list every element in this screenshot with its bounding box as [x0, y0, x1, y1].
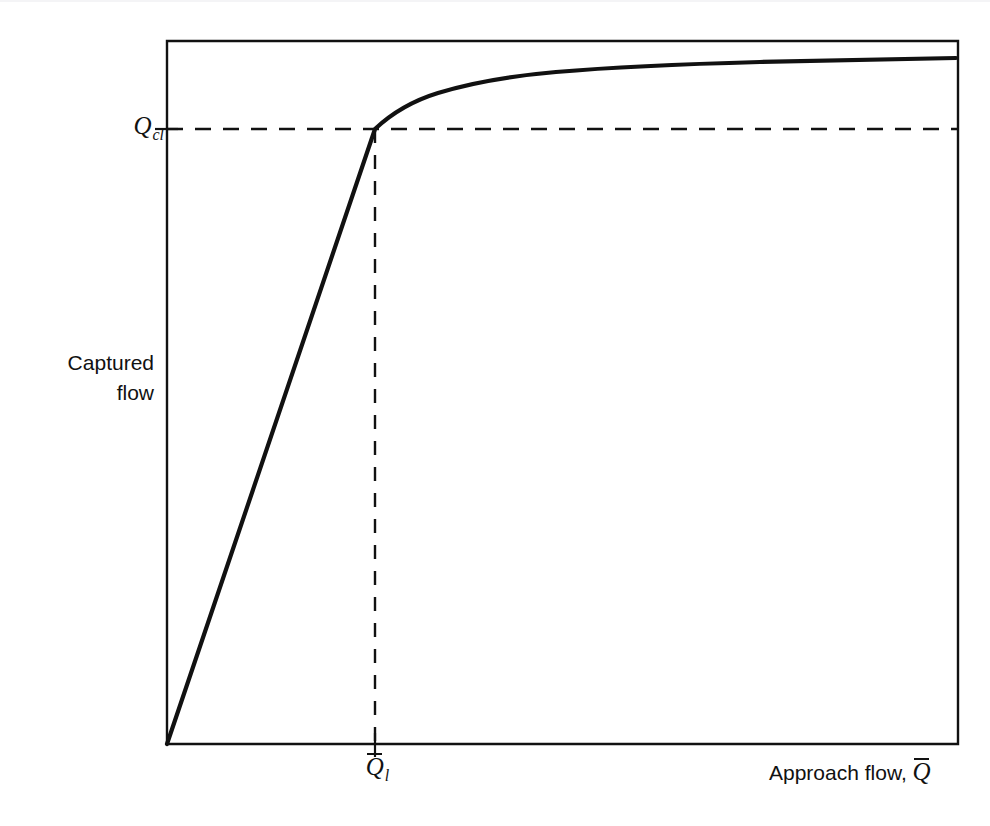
x-tick-subscript: l	[385, 767, 389, 784]
x-axis-title-symbol: Q	[913, 757, 931, 786]
y-tick-subscript: cl	[152, 126, 164, 143]
y-tick-label-qcl: Qcl	[118, 112, 163, 140]
y-tick-symbol: Q	[133, 112, 151, 139]
y-axis-title: Captured flow	[20, 348, 154, 408]
x-axis-title-text: Approach flow,	[769, 761, 907, 784]
y-axis-title-line2: flow	[20, 378, 154, 408]
captured-flow-curve	[167, 58, 956, 744]
captured-flow-chart: Captured flow Approach flow, Q Qcl Ql	[0, 0, 990, 826]
x-tick-symbol: Q	[366, 752, 384, 781]
x-axis-title: Approach flow, Q	[769, 757, 931, 786]
y-axis-title-line1: Captured	[20, 348, 154, 378]
x-tick-label-ql: Ql	[355, 752, 399, 781]
